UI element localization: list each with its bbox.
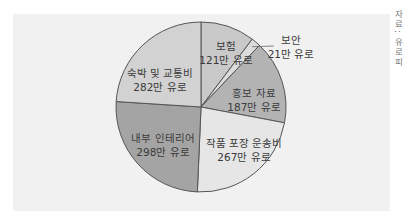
- label-value: 21만 유로: [268, 47, 315, 61]
- label-value: 282만 유로: [127, 80, 194, 94]
- label-interior: 내부 인테리어 298만 유로: [131, 131, 194, 159]
- label-name: 작품 포장 운송비: [206, 136, 283, 150]
- label-value: 121만 유로: [199, 53, 252, 67]
- label-value: 298만 유로: [131, 145, 194, 159]
- label-artwork-shipping: 작품 포장 운송비 267만 유로: [206, 136, 283, 164]
- label-value: 267만 유로: [206, 150, 283, 164]
- label-promotional-materials: 홍보 자료 187만 유로: [227, 86, 280, 114]
- label-lodging-transport: 숙박 및 교통비 282만 유로: [127, 66, 194, 94]
- label-name: 보안: [268, 33, 315, 47]
- label-name: 홍보 자료: [227, 86, 280, 100]
- label-name: 숙박 및 교통비: [127, 66, 194, 80]
- pie-slice: [116, 22, 201, 107]
- label-value: 187만 유로: [227, 100, 280, 114]
- label-name: 내부 인테리어: [131, 131, 194, 145]
- label-security: 보안 21만 유로: [268, 33, 315, 61]
- label-insurance: 보험 121만 유로: [199, 39, 252, 67]
- pie-chart: [0, 0, 412, 222]
- label-name: 보험: [199, 39, 252, 53]
- source-note: 자료: 유로피: [392, 10, 404, 68]
